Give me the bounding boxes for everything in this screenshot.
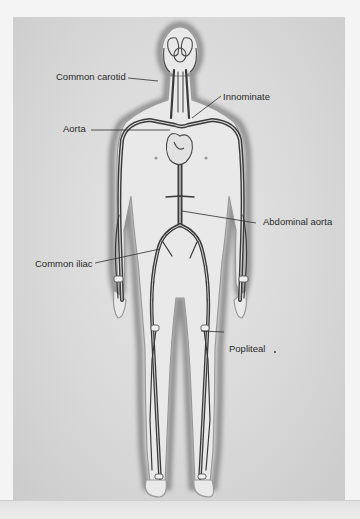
speck <box>274 351 276 353</box>
label-popliteal: Popliteal <box>229 344 265 354</box>
label-abdominal-aorta: Abdominal aorta <box>263 217 332 227</box>
heart <box>166 133 192 164</box>
label-innominate: Innominate <box>223 92 270 102</box>
label-aorta: Aorta <box>63 124 86 134</box>
page-edge <box>0 500 360 519</box>
label-common-carotid: Common carotid <box>56 72 126 82</box>
label-common-iliac: Common iliac <box>35 259 93 269</box>
illustration-panel: Common carotid Innominate Aorta Abdomina… <box>13 17 345 500</box>
